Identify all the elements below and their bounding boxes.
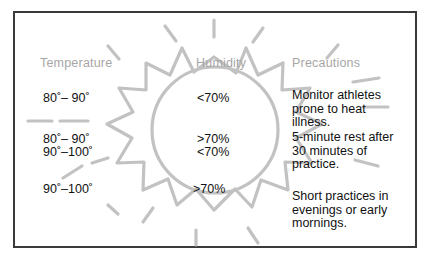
temperature-value-row-3: 90˚–100˚ xyxy=(43,145,93,159)
column-header-humidity: Humidity xyxy=(196,56,246,70)
humidity-value-row-4: >70% xyxy=(193,182,225,196)
column-header-precautions: Precautions xyxy=(292,56,360,70)
precaution-text-row-2: 5-minute rest after 30 minutes of practi… xyxy=(292,131,393,172)
column-header-temperature: Temperature xyxy=(40,56,112,70)
heat-precautions-figure: Temperature Humidity Precautions 80˚– 90… xyxy=(0,0,428,261)
figure-caption xyxy=(16,252,316,261)
temperature-value-row-2: 80˚– 90˚ xyxy=(43,132,90,146)
humidity-value-row-1: <70% xyxy=(197,91,229,105)
humidity-value-row-2: >70% xyxy=(197,132,229,146)
temperature-value-row-4: 90˚–100˚ xyxy=(43,182,93,196)
temperature-value-row-1: 80˚– 90˚ xyxy=(43,91,90,105)
precaution-text-row-1: Monitor athletes prone to heat illness. xyxy=(292,89,381,130)
humidity-value-row-3: <70% xyxy=(197,145,229,159)
precaution-text-row-4: Short practices in evenings or early mor… xyxy=(292,190,389,231)
